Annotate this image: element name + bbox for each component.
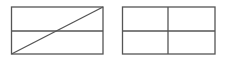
diagram-canvas [0,0,226,61]
right-rectangle-group [123,7,216,54]
left-rectangle-group [12,7,104,54]
